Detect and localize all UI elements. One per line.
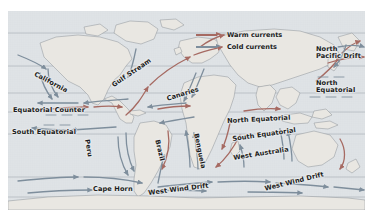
screenshot-root: Warm currents Cold currents California G…	[0, 0, 372, 221]
map-canvas	[8, 11, 365, 210]
legend-label-warm: Warm currents	[227, 31, 282, 39]
warm-current-arrow-icon	[196, 32, 223, 38]
cold-current-arrow-icon	[196, 44, 223, 50]
legend-row-cold: Cold currents	[196, 41, 300, 53]
map-legend: Warm currents Cold currents	[196, 29, 300, 55]
legend-label-cold: Cold currents	[227, 43, 277, 51]
legend-row-warm: Warm currents	[196, 29, 300, 41]
world-currents-map: Warm currents Cold currents California G…	[8, 11, 365, 210]
